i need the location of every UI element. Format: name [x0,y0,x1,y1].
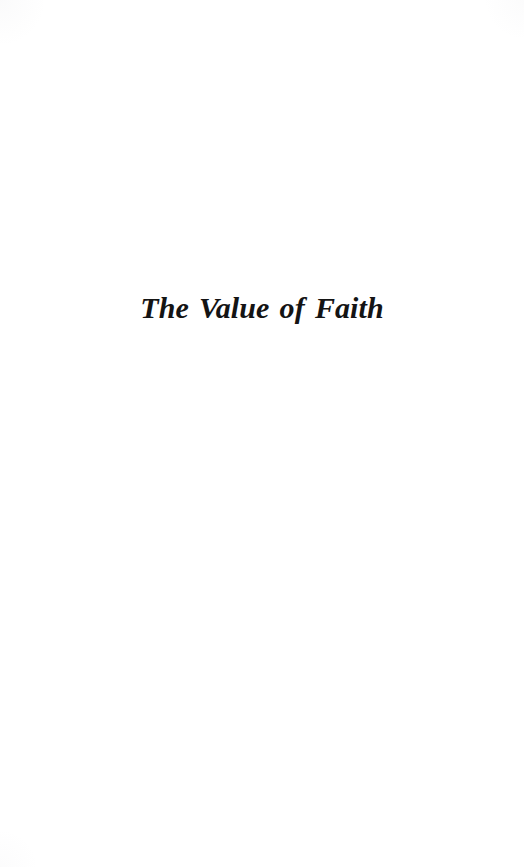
section-title-block: The Value of Faith [0,292,524,324]
scanned-page: The Value of Faith [0,0,524,867]
section-title: The Value of Faith [140,292,384,324]
